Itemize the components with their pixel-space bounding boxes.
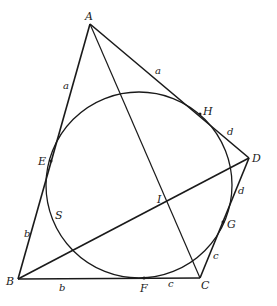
label-F: F <box>139 282 148 295</box>
label-D: D <box>251 152 261 165</box>
label-B: B <box>5 275 14 288</box>
segment-label-HD: d <box>227 126 233 137</box>
segment-label-BF: b <box>59 282 65 293</box>
segment-label-FC: c <box>168 278 174 289</box>
label-A: A <box>84 10 93 23</box>
point-E-marker <box>50 160 53 163</box>
segment-label-DG: d <box>238 185 244 196</box>
label-I: I <box>156 193 162 206</box>
label-E: E <box>37 155 46 168</box>
diagonal-AC <box>90 24 200 278</box>
side-AB <box>18 24 90 279</box>
side-AD <box>90 24 249 158</box>
point-F-marker <box>143 277 146 280</box>
segment-label-BE: b <box>24 228 30 239</box>
label-C: C <box>201 279 210 292</box>
segment-label-AE: a <box>63 80 69 91</box>
label-H: H <box>202 105 213 118</box>
label-S: S <box>55 209 63 222</box>
label-G: G <box>227 218 236 231</box>
point-H-marker <box>199 113 202 116</box>
side-CD <box>200 158 249 278</box>
tangential-quadrilateral-diagram: A B C D E H G F I S a a d d c c b b <box>0 0 277 306</box>
segment-label-AH: a <box>155 65 161 76</box>
segment-label-GC: c <box>213 250 219 261</box>
point-G-marker <box>222 221 225 224</box>
